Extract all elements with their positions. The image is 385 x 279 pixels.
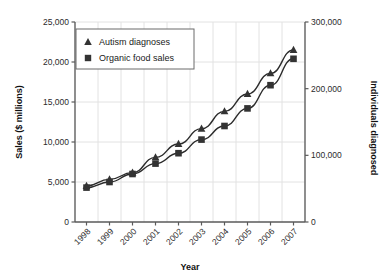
y-axis-left-title: Sales ($ millions) [14, 85, 24, 159]
chart-container: 05,00010,00015,00020,00025,000 0100,0002… [0, 0, 385, 279]
y-axis-left-tick-label: 10,000 [43, 137, 69, 147]
square-marker [83, 184, 90, 191]
y-axis-left-tick-label: 5,000 [48, 177, 70, 187]
y-axis-right-tick-label: 0 [311, 217, 316, 227]
square-marker [290, 56, 297, 63]
legend-square-marker-icon [85, 55, 91, 61]
y-axis-right-tick-label: 100,000 [311, 150, 342, 160]
y-axis-right-tick-label: 300,000 [311, 17, 342, 27]
square-marker [175, 150, 182, 157]
square-marker [221, 123, 228, 130]
chart-legend: Autism diagnosesOrganic food sales [76, 29, 194, 69]
square-marker [267, 82, 274, 89]
y-axis-left-tick-label: 15,000 [43, 97, 69, 107]
legend-item-label: Autism diagnoses [99, 37, 171, 47]
y-axis-right-title: Individuals diagnosed [369, 81, 379, 176]
y-axis-right-tick-label: 200,000 [311, 84, 342, 94]
square-marker [106, 179, 113, 186]
legend-item-label: Organic food sales [99, 53, 175, 63]
square-marker [198, 136, 205, 143]
x-axis-title: Year [180, 262, 200, 272]
square-marker [129, 171, 136, 178]
y-axis-left-tick-label: 20,000 [43, 57, 69, 67]
y-axis-left-tick-label: 0 [64, 217, 69, 227]
square-marker [244, 105, 251, 112]
dual-axis-line-chart: 05,00010,00015,00020,00025,000 0100,0002… [0, 0, 385, 279]
y-axis-left-tick-label: 25,000 [43, 17, 69, 27]
square-marker [152, 160, 159, 167]
